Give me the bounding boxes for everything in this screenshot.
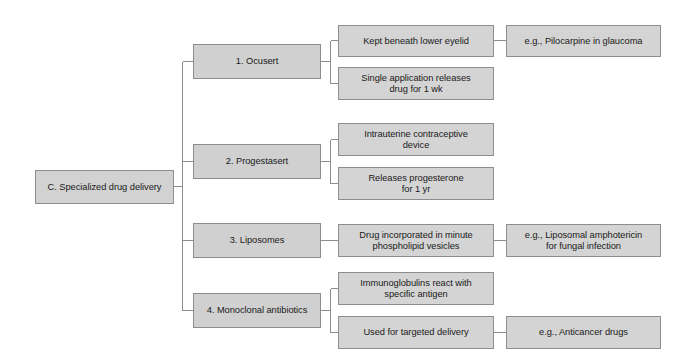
node-detail-releases-progesterone[interactable]: Releases progesterone for 1 yr — [338, 167, 494, 200]
node-branch-monoclonal-antibiotics-label: 4. Monoclonal antibiotics — [198, 305, 316, 316]
node-detail-single-application-label: Single application releases drug for 1 w… — [343, 73, 489, 95]
node-detail-targeted-delivery-label: Used for targeted delivery — [343, 327, 489, 338]
node-example-liposomal-amphotericin[interactable]: e.g., Liposomal amphotericin for fungal … — [506, 224, 661, 257]
node-branch-liposomes[interactable]: 3. Liposomes — [193, 223, 321, 258]
node-detail-releases-progesterone-label: Releases progesterone for 1 yr — [343, 173, 489, 195]
node-branch-progestasert-label: 2. Progestasert — [198, 156, 316, 167]
node-example-anticancer-drugs[interactable]: e.g., Anticancer drugs — [506, 316, 661, 349]
node-branch-monoclonal-antibiotics[interactable]: 4. Monoclonal antibiotics — [193, 293, 321, 328]
node-example-anticancer-drugs-label: e.g., Anticancer drugs — [511, 327, 656, 338]
node-branch-progestasert[interactable]: 2. Progestasert — [193, 144, 321, 179]
node-branch-ocusert-label: 1. Ocusert — [198, 56, 316, 67]
node-branch-liposomes-label: 3. Liposomes — [198, 235, 316, 246]
node-detail-intrauterine-device-label: Intrauterine contraceptive device — [343, 129, 489, 151]
node-detail-kept-beneath-lower-eyelid[interactable]: Kept beneath lower eyelid — [338, 25, 494, 57]
node-detail-drug-incorporated-vesicles-label: Drug incorporated in minute phospholipid… — [343, 230, 489, 252]
node-branch-ocusert[interactable]: 1. Ocusert — [193, 44, 321, 79]
node-detail-single-application[interactable]: Single application releases drug for 1 w… — [338, 67, 494, 100]
node-example-pilocarpine-label: e.g., Pilocarpine in glaucoma — [511, 36, 656, 47]
node-detail-targeted-delivery[interactable]: Used for targeted delivery — [338, 316, 494, 349]
node-example-liposomal-amphotericin-label: e.g., Liposomal amphotericin for fungal … — [511, 230, 656, 252]
flowchart-canvas: C. Specialized drug delivery 1. Ocusert … — [0, 0, 676, 360]
node-root[interactable]: C. Specialized drug delivery — [35, 170, 174, 204]
node-root-label: C. Specialized drug delivery — [40, 182, 169, 193]
node-detail-intrauterine-device[interactable]: Intrauterine contraceptive device — [338, 123, 494, 156]
node-example-pilocarpine[interactable]: e.g., Pilocarpine in glaucoma — [506, 25, 661, 57]
node-detail-drug-incorporated-vesicles[interactable]: Drug incorporated in minute phospholipid… — [338, 224, 494, 257]
node-detail-immunoglobulins-react[interactable]: Immunoglobulins react with specific anti… — [338, 272, 494, 305]
node-detail-immunoglobulins-react-label: Immunoglobulins react with specific anti… — [343, 278, 489, 300]
node-detail-kept-beneath-lower-eyelid-label: Kept beneath lower eyelid — [343, 36, 489, 47]
